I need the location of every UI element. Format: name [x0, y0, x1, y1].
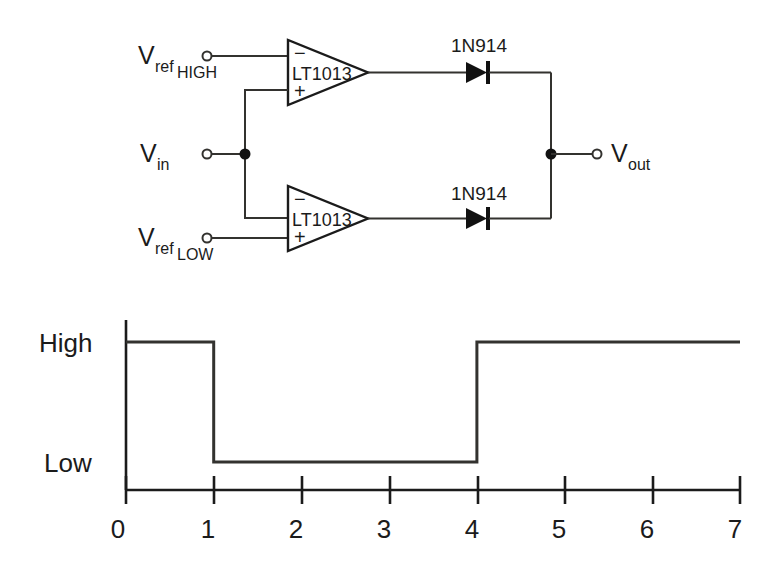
vin-terminal-icon[interactable]	[203, 150, 212, 159]
x-tick-label-5: 5	[552, 514, 566, 544]
vref-low-label: V ref LOW	[138, 223, 214, 263]
upper-diode-triangle-icon	[466, 62, 487, 83]
vout-label-main: V	[611, 139, 628, 167]
lower-diode[interactable]	[466, 207, 488, 230]
vin-junction-dot	[240, 149, 251, 160]
vin-label-main: V	[140, 139, 157, 167]
opamp-upper[interactable]: LT1013 − +	[288, 40, 368, 105]
lower-diode-triangle-icon	[466, 208, 487, 229]
vout-label-sub: out	[628, 156, 651, 173]
opamp-upper-plus-icon: +	[294, 80, 306, 102]
vin-label-sub: in	[157, 156, 169, 173]
y-tick-label-high: High	[39, 328, 92, 358]
vout-terminal-icon[interactable]	[593, 150, 602, 159]
output-waveform-plot: High Low 0 1 2 3 4 5 6 7	[0, 290, 781, 564]
vref-low-terminal-icon[interactable]	[203, 234, 212, 243]
opamp-lower-plus-icon: +	[294, 226, 306, 248]
vref-low-label-main: V	[138, 223, 155, 251]
lower-diode-part-label: 1N914	[451, 183, 507, 204]
x-tick-label-2: 2	[289, 514, 303, 544]
x-tick-label-1: 1	[201, 514, 215, 544]
y-tick-label-low: Low	[44, 448, 92, 478]
circuit-schematic: V ref HIGH LT1013 − + V in V ref LOW	[0, 0, 781, 290]
figure-root: V ref HIGH LT1013 − + V in V ref LOW	[0, 0, 781, 564]
vref-high-label-sub: ref	[155, 58, 174, 75]
x-tick-label-7: 7	[728, 514, 742, 544]
x-tick-label-4: 4	[465, 514, 479, 544]
vref-high-label-sub2: HIGH	[177, 64, 217, 81]
opamp-lower-minus-icon: −	[294, 188, 306, 210]
x-tick-label-3: 3	[377, 514, 391, 544]
vref-low-label-sub2: LOW	[177, 246, 214, 263]
x-tick-label-0: 0	[111, 514, 125, 544]
x-axis-tick-labels: 0 1 2 3 4 5 6 7	[111, 514, 742, 544]
vref-high-terminal-icon[interactable]	[203, 52, 212, 61]
waveform-trace	[126, 342, 740, 462]
x-tick-label-6: 6	[640, 514, 654, 544]
vref-low-label-sub: ref	[155, 240, 174, 257]
upper-diode[interactable]	[466, 61, 488, 84]
opamp-upper-minus-icon: −	[294, 42, 306, 64]
vin-label: V in	[140, 139, 169, 173]
vref-high-label-main: V	[138, 41, 155, 69]
wire-vin-branch	[245, 90, 288, 218]
vout-label: V out	[611, 139, 651, 173]
opamp-lower[interactable]: LT1013 − +	[288, 186, 368, 251]
upper-diode-part-label: 1N914	[451, 35, 507, 56]
